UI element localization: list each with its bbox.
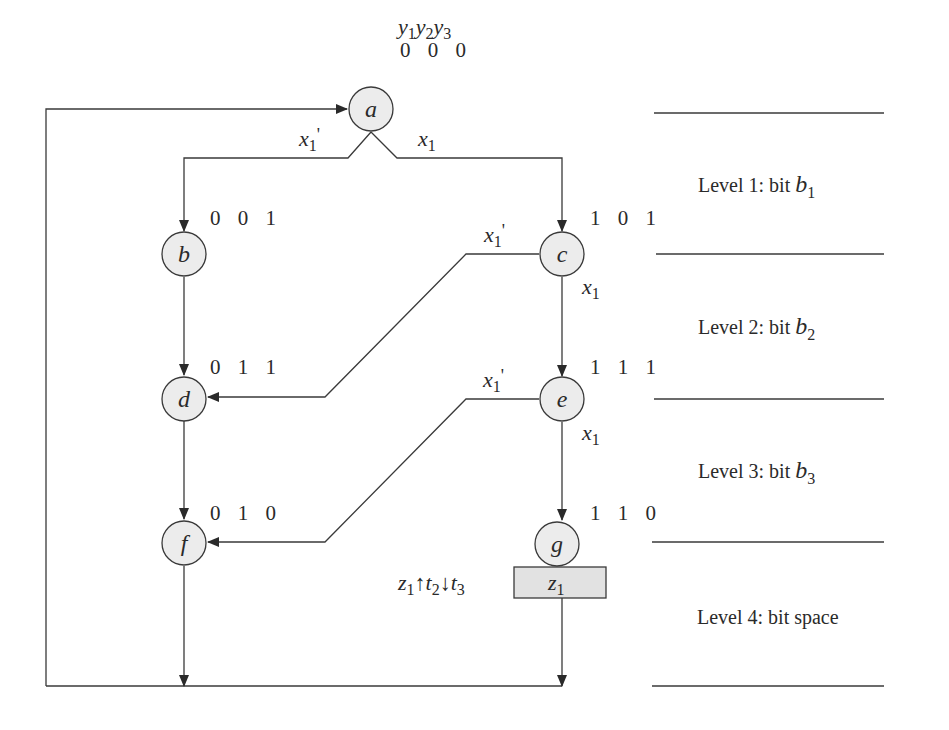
node-d: d xyxy=(162,377,206,421)
level-label-1: Level 1: bit b1 xyxy=(698,171,815,201)
level-label-2: Level 2: bit b2 xyxy=(698,313,815,343)
svg-text:g: g xyxy=(551,531,563,557)
code-f: 0 1 0 xyxy=(210,501,282,525)
level-label-4: Level 4: bit space xyxy=(697,606,839,629)
cond-a-right: x1 xyxy=(417,126,436,154)
cond-c-left: x1' xyxy=(483,221,505,250)
svg-text:d: d xyxy=(178,386,191,412)
edge-a-to-c xyxy=(371,132,562,231)
edges xyxy=(46,109,562,686)
cond-e-down: x1 xyxy=(581,420,600,448)
cond-e-left: x1' xyxy=(482,366,504,395)
node-g: g xyxy=(535,522,579,566)
node-c: c xyxy=(540,232,584,276)
code-a: 0 0 0 xyxy=(400,38,472,62)
cond-c-down: x1 xyxy=(581,274,600,302)
code-d: 0 1 1 xyxy=(210,355,282,379)
code-e: 1 1 1 xyxy=(590,355,662,379)
code-c: 1 0 1 xyxy=(590,206,662,230)
node-e: e xyxy=(540,377,584,421)
svg-text:b: b xyxy=(178,241,190,267)
node-b: b xyxy=(162,232,206,276)
level-label-3: Level 3: bit b3 xyxy=(698,457,815,487)
node-a: a xyxy=(349,87,393,131)
state-diagram: z1 z1↑t2↓t3 a b c d e f g y1y2y3 0 0 0 0… xyxy=(0,0,949,730)
level-separators xyxy=(652,113,884,686)
code-b: 0 0 1 xyxy=(210,206,282,230)
svg-text:c: c xyxy=(557,241,568,267)
code-g: 1 1 0 xyxy=(590,501,662,525)
cond-a-left: x1' xyxy=(298,125,320,154)
timing-annotation: z1↑t2↓t3 xyxy=(397,570,465,598)
svg-text:a: a xyxy=(365,96,377,122)
node-f: f xyxy=(162,521,206,565)
svg-text:e: e xyxy=(557,386,568,412)
